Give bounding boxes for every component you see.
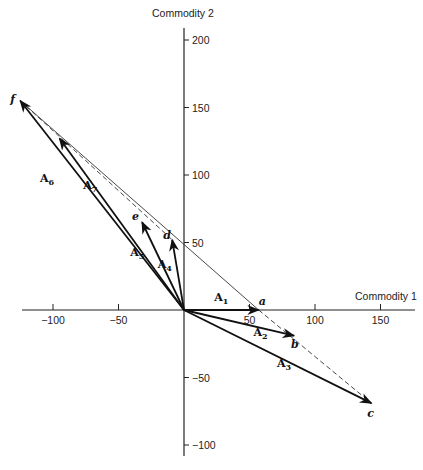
y-axis-label: Commodity 2 [152, 7, 214, 19]
x-tick-label: −100 [41, 314, 65, 326]
f-to-a-solid [20, 101, 258, 310]
axes: −100−505010015020015010050−50−100 [22, 28, 415, 456]
vector-label-a7: A7 [82, 179, 97, 194]
y-tick-label: 100 [192, 169, 210, 181]
y-tick-label: 150 [192, 102, 210, 114]
f-to-d-dashed [20, 101, 172, 240]
point-label-b: b [291, 338, 299, 351]
x-tick-label: 150 [372, 314, 390, 326]
construction-lines [20, 101, 371, 403]
vector-a2 [184, 310, 294, 336]
vector-label-a5: A5 [129, 246, 144, 261]
point-label-e: e [132, 210, 139, 223]
point-label-c: c [367, 407, 374, 420]
x-tick-label: −50 [110, 314, 128, 326]
point-label-d: d [163, 229, 171, 242]
point-label-f: f [9, 93, 17, 106]
y-tick-label: −100 [192, 439, 216, 451]
x-axis-label: Commodity 1 [355, 290, 417, 302]
y-tick-label: −50 [192, 372, 210, 384]
vector-a7 [60, 139, 184, 310]
point-label-a: a [259, 295, 266, 308]
y-tick-label: 200 [192, 34, 210, 46]
vector-a6 [20, 101, 184, 310]
x-tick-label: 100 [306, 314, 324, 326]
vector-label-a1: A1 [213, 291, 228, 306]
vector-label-a3: A3 [276, 357, 292, 372]
vector-label-a6: A6 [39, 172, 55, 187]
vector-label-a2: A2 [252, 326, 267, 341]
vector-diagram: −100−505010015020015010050−50−100 A1A2A3… [0, 0, 423, 470]
vector-label-a4: A4 [157, 258, 173, 273]
y-tick-label: 50 [192, 237, 204, 249]
vectors [20, 101, 371, 403]
